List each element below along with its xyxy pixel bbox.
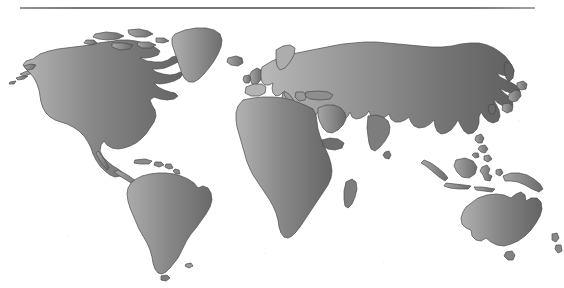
- landmass-tasmania: [504, 251, 515, 260]
- landmass-australia: [461, 192, 542, 246]
- landmass-indonesia: [421, 158, 503, 192]
- landmass-sri-lanka: [383, 151, 391, 159]
- landmass-new-guinea: [503, 173, 543, 192]
- landmass-caribbean-islands: [134, 159, 180, 174]
- figure-page: [0, 0, 564, 288]
- horizontal-rule: [20, 7, 535, 9]
- landmass-south-america: [127, 173, 212, 281]
- landmass-madagascar: [344, 179, 357, 208]
- world-map-figure: [0, 12, 564, 288]
- landmass-philippines: [472, 134, 492, 162]
- landmass-british-isles: [243, 68, 262, 85]
- landmass-new-zealand: [552, 233, 562, 253]
- landmass-iceland: [227, 56, 243, 66]
- world-map-graphic: [0, 12, 564, 288]
